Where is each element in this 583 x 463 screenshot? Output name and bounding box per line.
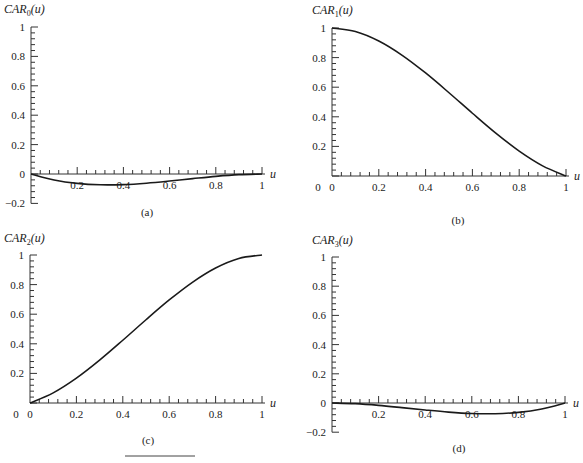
y-axis-title: CAR2(u) [4, 231, 45, 247]
x-tick-label: 1 [259, 179, 265, 191]
x-axis-title: u [270, 396, 276, 410]
x-tick-label: 1 [562, 408, 568, 420]
catmull-rom-basis-figure: −0.200.20.40.60.810.20.40.60.81uCAR0(u)(… [0, 0, 583, 463]
y-tick-label: 0.6 [312, 309, 326, 321]
y-tick-label: 0.8 [312, 52, 326, 64]
y-tick-label: 0 [321, 397, 327, 409]
chart-panel-c: 0.20.40.60.8100.20.40.60.810uCAR2(u)(c) [4, 231, 276, 447]
basis-curve [332, 403, 565, 414]
y-tick-label: 0.6 [312, 81, 326, 93]
y-tick-label: 0 [20, 168, 26, 180]
panel-label: (c) [142, 434, 155, 447]
x-tick-label: 0.8 [512, 181, 526, 193]
x-tick-label: 0.2 [70, 179, 84, 191]
x-tick-label: 1 [259, 408, 265, 420]
chart-panel-b: 0.20.40.60.8100.20.40.60.810uCAR1(u)(b) [312, 3, 580, 227]
y-tick-label: 0.6 [11, 80, 25, 92]
x-tick-label: 0.4 [116, 408, 130, 420]
x-tick-label: 0.2 [372, 181, 386, 193]
x-tick-label: 0.8 [512, 408, 526, 420]
y-tick-label: 0.8 [10, 279, 24, 291]
y-axis-title: CAR1(u) [312, 3, 353, 19]
y-tick-label: 0.8 [11, 50, 25, 62]
y-tick-label: 1 [19, 249, 25, 261]
chart-panel-a: −0.200.20.40.60.810.20.40.60.81uCAR0(u)(… [4, 2, 276, 219]
y-tick-label: 1 [20, 21, 26, 33]
y-tick-label: −0.2 [5, 197, 25, 209]
x-tick-label: 0 [329, 181, 335, 193]
x-axis-title: u [270, 167, 276, 181]
x-tick-label: 0.4 [419, 181, 433, 193]
panel-label: (b) [452, 214, 465, 227]
panel-label: (d) [453, 442, 466, 455]
y-tick-label: 0.2 [11, 139, 25, 151]
panel-label: (a) [141, 206, 154, 219]
y-axis-title: CAR3(u) [312, 233, 353, 249]
y-tick-label: 1 [321, 251, 327, 263]
y-tick-label: 0.4 [312, 339, 326, 351]
y-tick-label: 0.4 [11, 109, 25, 121]
y-tick-label: 0.6 [10, 308, 24, 320]
x-tick-label: 0.8 [209, 179, 223, 191]
x-tick-label: 0.2 [372, 408, 386, 420]
y-tick-label: 0.2 [312, 140, 326, 152]
y-tick-label: 1 [321, 22, 327, 34]
y-axis-title: CAR0(u) [4, 2, 45, 18]
basis-curve [332, 28, 566, 176]
y-tick-label: 0.2 [312, 368, 326, 380]
x-tick-label: 0.8 [209, 408, 223, 420]
x-tick-label: 0.6 [466, 181, 480, 193]
basis-curve [31, 174, 262, 185]
x-tick-label: 0 [27, 408, 33, 420]
chart-panel-d: −0.200.20.40.60.810.20.40.60.81uCAR3(u)(… [306, 233, 579, 455]
x-tick-label: 0.6 [162, 408, 176, 420]
basis-curve [30, 255, 262, 403]
x-tick-label: 1 [563, 181, 569, 193]
y-tick-label: 0.4 [312, 111, 326, 123]
x-axis-title: u [573, 396, 579, 410]
x-axis-title: u [574, 169, 580, 183]
y-tick-label: 0.4 [10, 338, 24, 350]
y-tick-label: 0.2 [10, 367, 24, 379]
origin-label: 0 [13, 408, 19, 420]
y-tick-label: −0.2 [306, 426, 326, 438]
x-tick-label: 0.2 [70, 408, 84, 420]
y-tick-label: 0.8 [312, 280, 326, 292]
origin-label: 0 [315, 181, 321, 193]
